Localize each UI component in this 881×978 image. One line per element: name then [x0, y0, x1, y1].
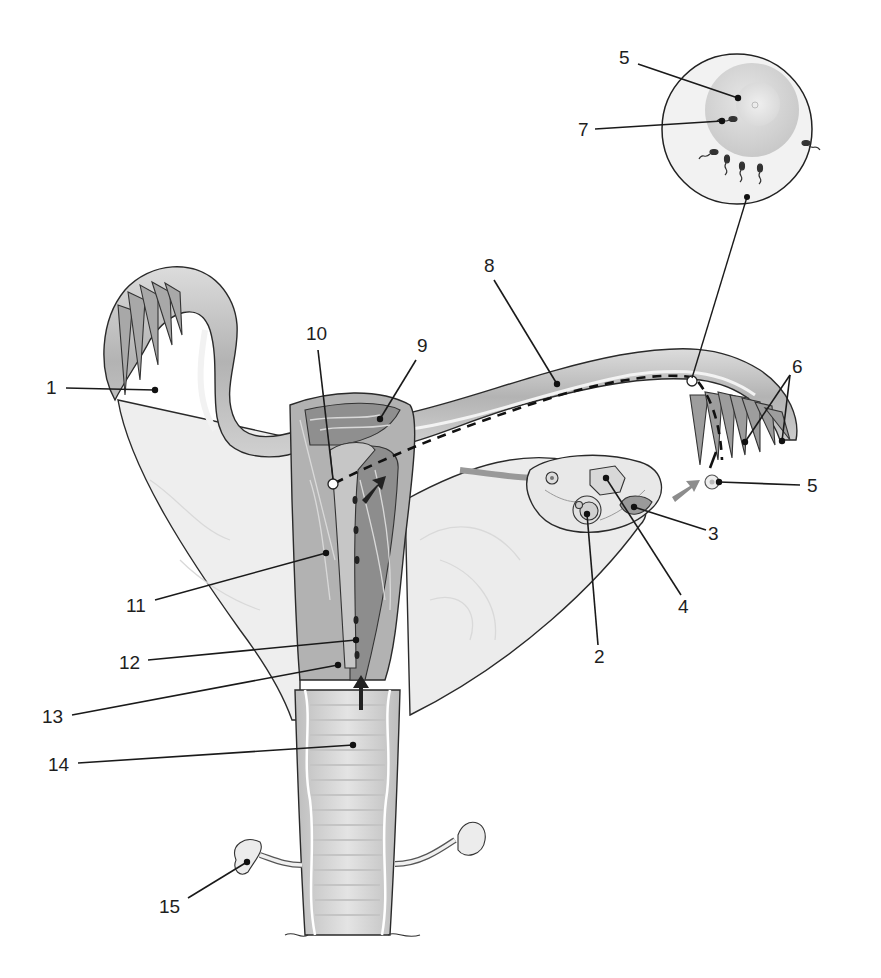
label-1: 1	[46, 377, 57, 398]
label-14: 14	[48, 754, 70, 775]
label-5b: 5	[807, 475, 818, 496]
ovulation-arrow-icon	[672, 480, 700, 502]
label-2: 2	[594, 646, 605, 667]
label-11: 11	[126, 595, 146, 616]
inset-connector	[692, 197, 747, 378]
label-3: 3	[708, 523, 719, 544]
label-4: 4	[678, 596, 689, 617]
label-7: 7	[578, 119, 589, 140]
label-12: 12	[119, 652, 140, 673]
label-5a: 5	[619, 47, 630, 68]
label-15: 15	[159, 896, 180, 917]
label-13: 13	[42, 706, 63, 727]
reproductive-anatomy-diagram: 1 2 3 4 5 5 6 7 8 9 10 11 12 13 14 15	[0, 0, 881, 978]
label-10: 10	[306, 323, 327, 344]
label-9: 9	[417, 335, 428, 356]
label-8: 8	[484, 255, 495, 276]
uterus	[290, 393, 415, 680]
internal-os-marker	[328, 479, 338, 489]
label-6: 6	[792, 356, 803, 377]
vagina	[285, 690, 420, 936]
ovum-inset	[662, 54, 820, 378]
